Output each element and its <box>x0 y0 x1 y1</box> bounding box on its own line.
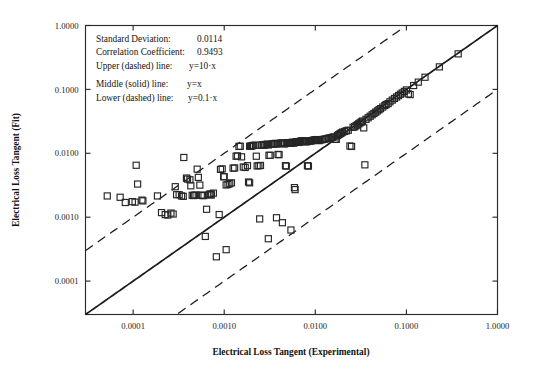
y-tick-label: 0.0001 <box>55 276 79 286</box>
x-tick-label: 0.0010 <box>212 321 236 331</box>
annotation-label: Upper (dashed) line: <box>96 61 172 72</box>
y-tick-label: 0.0100 <box>55 148 79 158</box>
annotation-label: Middle (solid) line: <box>96 79 168 90</box>
x-tick-label: 0.0100 <box>303 321 327 331</box>
annotation-label: Standard Deviation: <box>96 34 171 44</box>
annotation-value: y=0.1·x <box>188 93 218 103</box>
annotation-value: y=10·x <box>189 61 216 71</box>
annotation-value: 0.0114 <box>197 34 223 44</box>
x-tick-label: 0.0001 <box>121 321 145 331</box>
annotation-label: Lower (dashed) line: <box>96 93 173 104</box>
x-tick-label: 0.1000 <box>395 321 419 331</box>
annotation-value: 0.9493 <box>197 47 223 57</box>
annotation-value: y=x <box>187 79 202 89</box>
y-axis-title: Electrical Loss Tangent (Fit) <box>11 113 22 227</box>
scatter-plot-svg: 0.00010.00100.01000.10001.00000.00010.00… <box>0 0 542 369</box>
y-tick-label: 0.0010 <box>55 212 79 222</box>
x-axis-title: Electrical Loss Tangent (Experimental) <box>212 347 369 358</box>
y-tick-label: 1.0000 <box>55 21 79 31</box>
y-tick-label: 0.1000 <box>55 85 79 95</box>
chart-figure: 0.00010.00100.01000.10001.00000.00010.00… <box>0 0 542 369</box>
annotation-label: Correlation Coefficient: <box>96 47 185 57</box>
x-tick-label: 1.0000 <box>486 321 510 331</box>
